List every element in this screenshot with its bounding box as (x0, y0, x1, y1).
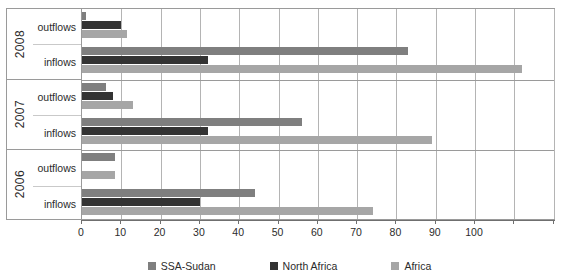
year-label-text: 2007 (13, 100, 27, 128)
bar-2008-inflows-north-africa (82, 56, 208, 64)
year-group-2007: 2007outflowsinflows (6, 79, 81, 150)
flow-label-2008-inflows: inflows (33, 44, 81, 79)
bar-2006-inflows-ssa-sudan (82, 189, 255, 197)
bar-2008-outflows-ssa-sudan (82, 12, 86, 20)
bar-2007-inflows-north-africa (82, 127, 208, 135)
year-group-2006: 2006outflowsinflows (6, 149, 81, 220)
x-tick-label-40: 40 (232, 226, 244, 238)
x-tick-30 (199, 220, 200, 224)
legend-label: SSA-Sudan (161, 260, 216, 272)
x-tick-label-60: 60 (311, 226, 323, 238)
plot-area (81, 8, 555, 220)
x-tick-0 (81, 220, 82, 224)
bar-2008-inflows-ssa-sudan (82, 47, 408, 55)
bar-2008-inflows-africa (82, 65, 522, 73)
bar-2006-outflows-africa (82, 171, 115, 179)
bar-2007-outflows-ssa-sudan (82, 83, 106, 91)
group-separator-2007 (82, 80, 554, 81)
x-tick-10 (120, 220, 121, 224)
bar-2006-inflows-africa (82, 207, 373, 215)
year-group-2008: 2008outflowsinflows (6, 8, 81, 79)
x-tick-50 (278, 220, 279, 224)
bar-group-2006-inflows (82, 186, 554, 221)
x-tick-90 (435, 220, 436, 224)
grouped-bar-chart: 2008outflowsinflows2007outflowsinflows20… (0, 0, 579, 275)
bar-2007-inflows-africa (82, 136, 432, 144)
x-tick-120 (553, 220, 554, 224)
year-label-text: 2008 (13, 30, 27, 58)
flow-rows-2006: outflowsinflows (33, 150, 81, 219)
x-tick-label-50: 50 (272, 226, 284, 238)
year-label-text: 2006 (13, 170, 27, 198)
flow-label-2006-inflows: inflows (33, 186, 81, 221)
group-separator-2006 (82, 150, 554, 151)
x-tick-label-70: 70 (350, 226, 362, 238)
legend-swatch-north-africa (270, 262, 278, 270)
x-tick-80 (395, 220, 396, 224)
flow-rows-2008: outflowsinflows (33, 9, 81, 79)
legend-item-ssa-sudan[interactable]: SSA-Sudan (148, 260, 216, 272)
legend-item-africa[interactable]: Africa (391, 260, 431, 272)
bar-group-2007-outflows (82, 80, 554, 115)
bar-2007-outflows-north-africa (82, 92, 113, 100)
bar-group-2007-inflows (82, 115, 554, 150)
category-axis-panel: 2008outflowsinflows2007outflowsinflows20… (6, 8, 81, 220)
bar-2006-outflows-ssa-sudan (82, 153, 115, 161)
legend-label: North Africa (283, 260, 338, 272)
flow-label-2007-inflows: inflows (33, 115, 81, 150)
bar-2008-outflows-africa (82, 30, 127, 38)
x-tick-100 (474, 220, 475, 224)
year-label-2007: 2007 (7, 80, 33, 150)
bar-2007-outflows-africa (82, 101, 133, 109)
year-label-2006: 2006 (7, 150, 33, 219)
x-tick-20 (160, 220, 161, 224)
flow-label-2006-outflows: outflows (33, 150, 81, 185)
legend-item-north-africa[interactable]: North Africa (270, 260, 338, 272)
bar-2008-outflows-north-africa (82, 21, 121, 29)
x-tick-label-20: 20 (154, 226, 166, 238)
x-tick-110 (513, 220, 514, 224)
x-tick-label-90: 90 (429, 226, 441, 238)
legend-swatch-africa (391, 262, 399, 270)
flow-label-2007-outflows: outflows (33, 80, 81, 115)
year-label-2008: 2008 (7, 9, 33, 79)
x-tick-label-0: 0 (78, 226, 84, 238)
x-tick-60 (317, 220, 318, 224)
legend-label: Africa (404, 260, 431, 272)
bar-group-2008-inflows (82, 44, 554, 79)
bar-group-2006-outflows (82, 150, 554, 185)
flow-label-2008-outflows: outflows (33, 9, 81, 44)
bar-2006-inflows-north-africa (82, 198, 200, 206)
x-tick-70 (356, 220, 357, 224)
x-tick-label-10: 10 (114, 226, 126, 238)
x-tick-label-30: 30 (193, 226, 205, 238)
x-tick-label-80: 80 (390, 226, 402, 238)
chart-legend: SSA-SudanNorth AfricaAfrica (0, 258, 579, 274)
x-tick-40 (238, 220, 239, 224)
bar-2007-inflows-ssa-sudan (82, 118, 302, 126)
legend-swatch-ssa-sudan (148, 262, 156, 270)
flow-rows-2007: outflowsinflows (33, 80, 81, 150)
x-axis-line (81, 220, 555, 221)
bar-group-2008-outflows (82, 9, 554, 44)
x-tick-label-100: 100 (465, 226, 483, 238)
